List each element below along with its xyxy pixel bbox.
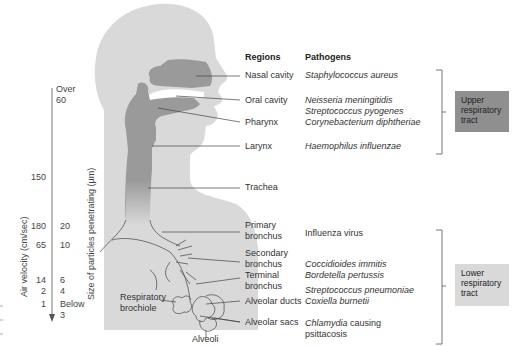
region-trachea: Trachea <box>245 182 278 193</box>
particle-size-10: 10 <box>60 240 70 250</box>
air-velocity-2: 2 <box>41 286 46 296</box>
label-alveoli: Alveoli <box>192 334 219 345</box>
region-larynx: Larynx <box>245 141 272 152</box>
region-secondary-bronchus-2: bronchus <box>245 259 282 270</box>
pathogen-coxiella: Coxiella burnetii <box>305 296 369 307</box>
particle-size-over: Over <box>56 84 76 94</box>
label-respiratory-brochiole-1: Respiratory <box>120 292 166 303</box>
pathogens-header: Pathogens <box>305 52 351 63</box>
lower-tract-line-3: tract <box>461 288 503 298</box>
upper-tract-bracket <box>436 70 446 154</box>
air-velocity-65: 65 <box>36 240 46 250</box>
particle-size-below: Below <box>60 299 85 309</box>
particle-size-axis-label: Size of particles penetrating (µm) <box>86 168 96 300</box>
lower-tract-line-1: Lower <box>461 268 503 278</box>
lower-respiratory-tract-box: Lower respiratory tract <box>455 264 509 306</box>
pathogen-psittacosis: psittacosis <box>305 329 347 340</box>
air-velocity-1: 1 <box>41 299 46 309</box>
particle-size-20: 20 <box>60 221 70 231</box>
region-nasal-cavity: Nasal cavity <box>245 70 294 81</box>
pathogen-bordetella: Bordetella pertussis <box>305 270 384 281</box>
body-silhouette <box>95 4 258 330</box>
region-pharynx: Pharynx <box>245 117 278 128</box>
air-velocity-axis-label: Air velocity (cm/sec) <box>19 216 29 297</box>
region-primary-bronchus-2: bronchus <box>245 231 282 242</box>
pathogen-chlamydia: Chlamydia causing <box>305 318 381 329</box>
pathogen-haemophilus: Haemophilus influenzae <box>305 141 401 152</box>
lower-tract-line-2: respiratory <box>461 278 503 288</box>
region-terminal-bronchus-2: bronchus <box>245 281 282 292</box>
region-primary-bronchus-1: Primary <box>245 220 276 231</box>
air-velocity-150: 150 <box>31 172 46 182</box>
particle-size-60: 60 <box>56 95 66 105</box>
lower-tract-bracket <box>436 230 446 344</box>
region-terminal-bronchus-1: Terminal <box>245 270 279 281</box>
particle-size-6: 6 <box>60 275 65 285</box>
particle-size-4: 4 <box>60 286 65 296</box>
air-velocity-180: 180 <box>31 221 46 231</box>
pathogen-staphylococcus: Staphylococcus aureus <box>305 70 398 81</box>
pathogen-corynebacterium: Corynebacterium diphtheriae <box>305 117 421 128</box>
pathogen-influenza: Influenza virus <box>305 228 363 239</box>
pathogen-neisseria: Neisseria meningitidis <box>305 95 393 106</box>
upper-tract-line-2: respiratory <box>461 105 503 115</box>
regions-header: Regions <box>245 52 281 63</box>
trachea <box>126 180 150 225</box>
pathogen-streptococcus-pneumoniae: Streptococcus pneumoniae <box>305 285 414 296</box>
region-alveolar-sacs: Alveolar sacs <box>245 317 299 328</box>
upper-tract-line-3: tract <box>461 115 503 125</box>
upper-respiratory-tract-box: Upper respiratory tract <box>455 91 509 132</box>
pathogen-coccidioides: Coccidioides immitis <box>305 259 387 270</box>
pathogen-streptococcus-pyogenes: Streptococcus pyogenes <box>305 106 404 117</box>
region-oral-cavity: Oral cavity <box>245 95 288 106</box>
air-velocity-14: 14 <box>36 275 46 285</box>
particle-size-3: 3 <box>60 310 65 320</box>
upper-tract-line-1: Upper <box>461 95 503 105</box>
label-respiratory-brochiole-2: brochiole <box>120 303 157 314</box>
region-alveolar-ducts: Alveolar ducts <box>245 296 302 307</box>
region-secondary-bronchus-1: Secondary <box>245 248 288 259</box>
